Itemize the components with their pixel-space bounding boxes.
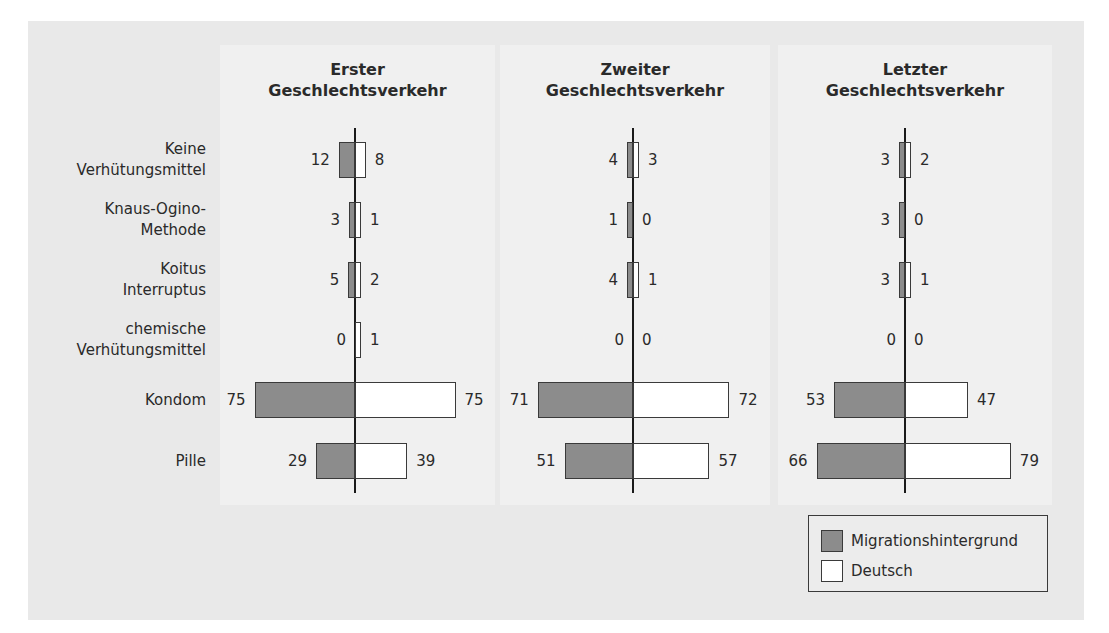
bar-migrationshintergrund (339, 142, 355, 178)
panel-title: LetzterGeschlechtsverkehr (778, 59, 1052, 101)
value-label-deutsch: 2 (920, 151, 930, 169)
value-label-migrationshintergrund: 12 (311, 151, 330, 169)
value-label-deutsch: 0 (642, 331, 652, 349)
category-label-line: Verhütungsmittel (77, 340, 206, 361)
panel-title-line: Geschlechtsverkehr (500, 80, 770, 101)
value-label-deutsch: 39 (416, 452, 435, 470)
value-label-migrationshintergrund: 3 (880, 271, 890, 289)
value-label-deutsch: 47 (977, 391, 996, 409)
value-label-migrationshintergrund: 29 (288, 452, 307, 470)
value-label-migrationshintergrund: 71 (510, 391, 529, 409)
category-label-line: Methode (104, 220, 206, 241)
value-label-deutsch: 1 (370, 211, 380, 229)
category-label-line: Knaus-Ogino- (104, 199, 206, 220)
legend-swatch-deutsch (821, 560, 843, 582)
bar-migrationshintergrund (538, 382, 633, 418)
value-label-deutsch: 75 (465, 391, 484, 409)
bar-deutsch (905, 443, 1011, 479)
bar-deutsch (633, 443, 709, 479)
value-label-deutsch: 3 (648, 151, 658, 169)
bar-deutsch (355, 382, 456, 418)
category-label-line: Verhütungsmittel (77, 160, 206, 181)
bar-deutsch (633, 142, 639, 178)
panel-title-line: Erster (220, 59, 495, 80)
zero-axis-line (904, 128, 906, 493)
panel-title-line: Zweiter (500, 59, 770, 80)
category-label: KeineVerhütungsmittel (77, 139, 206, 181)
bar-deutsch (355, 202, 361, 238)
value-label-migrationshintergrund: 0 (886, 331, 896, 349)
category-labels: KeineVerhütungsmittelKnaus-Ogino-Methode… (28, 0, 206, 633)
value-label-migrationshintergrund: 0 (614, 331, 624, 349)
zero-axis-line (354, 128, 356, 493)
zero-axis-line (632, 128, 634, 493)
bar-migrationshintergrund (348, 262, 355, 298)
bar-deutsch (905, 262, 911, 298)
category-label-line: Kondom (145, 390, 206, 411)
legend-item-deutsch: Deutsch (821, 560, 913, 582)
legend-item-migration: Migrationshintergrund (821, 530, 1018, 552)
value-label-migrationshintergrund: 53 (806, 391, 825, 409)
value-label-migrationshintergrund: 3 (880, 151, 890, 169)
bar-migrationshintergrund (565, 443, 633, 479)
value-label-migrationshintergrund: 75 (226, 391, 245, 409)
value-label-deutsch: 0 (914, 211, 924, 229)
bar-deutsch (905, 142, 911, 178)
value-label-deutsch: 1 (648, 271, 658, 289)
legend: Migrationshintergrund Deutsch (808, 515, 1048, 592)
value-label-migrationshintergrund: 66 (788, 452, 807, 470)
category-label: Pille (176, 451, 206, 472)
value-label-migrationshintergrund: 4 (608, 271, 618, 289)
panel-title: ErsterGeschlechtsverkehr (220, 59, 495, 101)
legend-label-migration: Migrationshintergrund (851, 532, 1018, 550)
value-label-deutsch: 57 (718, 452, 737, 470)
category-label: KoitusInterruptus (123, 259, 206, 301)
category-label-line: Koitus (123, 259, 206, 280)
category-label-line: Interruptus (123, 280, 206, 301)
value-label-deutsch: 2 (370, 271, 380, 289)
value-label-deutsch: 8 (375, 151, 385, 169)
value-label-deutsch: 0 (914, 331, 924, 349)
category-label: Knaus-Ogino-Methode (104, 199, 206, 241)
value-label-migrationshintergrund: 51 (537, 452, 556, 470)
category-label-line: chemische (77, 319, 206, 340)
legend-swatch-migration (821, 530, 843, 552)
category-label-line: Keine (77, 139, 206, 160)
panel-title-line: Geschlechtsverkehr (220, 80, 495, 101)
chart-panel: LetzterGeschlechtsverkehr (778, 45, 1052, 505)
bar-migrationshintergrund (899, 202, 905, 238)
panel-title-line: Geschlechtsverkehr (778, 80, 1052, 101)
bar-deutsch (355, 142, 366, 178)
value-label-migrationshintergrund: 4 (608, 151, 618, 169)
bar-migrationshintergrund (817, 443, 905, 479)
category-label-line: Pille (176, 451, 206, 472)
bar-migrationshintergrund (316, 443, 355, 479)
bar-migrationshintergrund (627, 202, 633, 238)
legend-label-deutsch: Deutsch (851, 562, 913, 580)
bar-deutsch (355, 262, 361, 298)
bar-migrationshintergrund (255, 382, 356, 418)
bar-deutsch (905, 382, 968, 418)
value-label-migrationshintergrund: 3 (880, 211, 890, 229)
bar-deutsch (355, 443, 407, 479)
category-label: chemischeVerhütungsmittel (77, 319, 206, 361)
value-label-migrationshintergrund: 0 (336, 331, 346, 349)
bar-deutsch (355, 322, 361, 358)
panel-title: ZweiterGeschlechtsverkehr (500, 59, 770, 101)
bar-deutsch (633, 262, 639, 298)
value-label-migrationshintergrund: 3 (330, 211, 340, 229)
value-label-deutsch: 72 (738, 391, 757, 409)
value-label-deutsch: 1 (370, 331, 380, 349)
value-label-deutsch: 0 (642, 211, 652, 229)
category-label: Kondom (145, 390, 206, 411)
value-label-deutsch: 79 (1020, 452, 1039, 470)
bar-deutsch (633, 382, 729, 418)
value-label-migrationshintergrund: 1 (608, 211, 618, 229)
bar-migrationshintergrund (834, 382, 905, 418)
value-label-migrationshintergrund: 5 (330, 271, 340, 289)
value-label-deutsch: 1 (920, 271, 930, 289)
panel-title-line: Letzter (778, 59, 1052, 80)
